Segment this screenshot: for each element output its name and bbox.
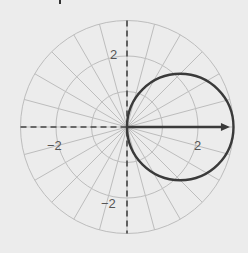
polar-plot-figure: 2 −2 2 −2 [0, 0, 248, 253]
grid-spoke [127, 99, 230, 127]
grid-spoke [127, 127, 202, 202]
tick-label-y-pos: 2 [110, 47, 117, 62]
grid-spoke [127, 127, 230, 155]
polar-plot: 2 −2 2 −2 [0, 0, 248, 253]
grid-spoke [127, 127, 155, 230]
grid-spoke [74, 35, 127, 127]
grid-spoke [35, 74, 127, 127]
grid-spoke [52, 127, 127, 202]
grid-spoke [127, 52, 202, 127]
grid-spoke [127, 74, 219, 127]
grid-spoke [35, 127, 127, 180]
grid-spoke [24, 99, 127, 127]
tick-label-x-pos: 2 [194, 138, 201, 153]
grid-spoke [52, 52, 127, 127]
grid-spoke [99, 127, 127, 230]
plot-curves [127, 74, 234, 181]
grid-spoke [127, 24, 155, 127]
arrow-head-icon [221, 123, 230, 131]
grid-spoke [24, 127, 127, 155]
grid-spoke [99, 24, 127, 127]
tick-label-y-neg: −2 [101, 196, 116, 211]
tick-label-x-neg: −2 [47, 138, 62, 153]
grid-spoke [127, 127, 219, 180]
